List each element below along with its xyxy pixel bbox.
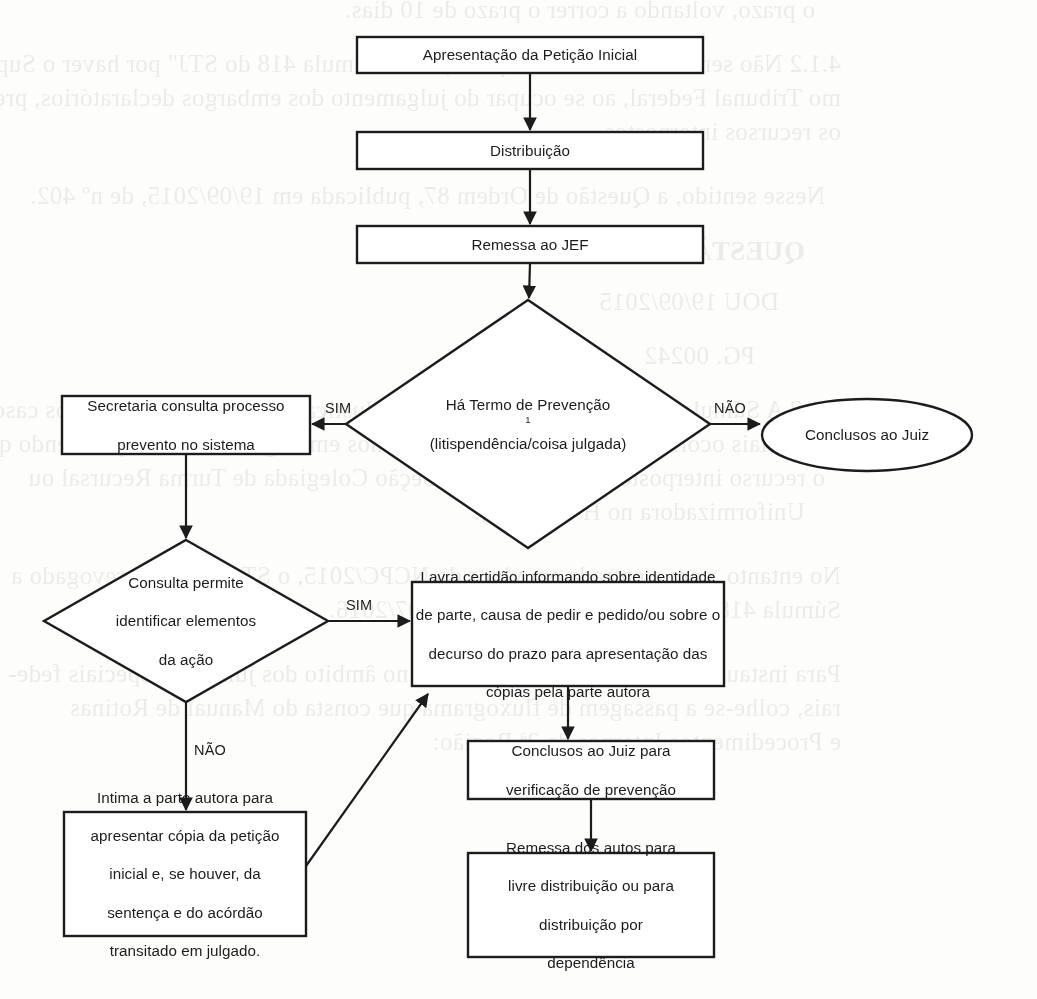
node-shape-peticao-inicial bbox=[357, 37, 703, 73]
edge-intima-to-lavra bbox=[306, 694, 428, 866]
node-shape-distribuicao bbox=[357, 132, 703, 169]
node-shape-lavra-certidao bbox=[412, 582, 724, 686]
node-shape-remessa-jef bbox=[357, 226, 703, 263]
node-shape-decisao-prevencao bbox=[346, 300, 710, 548]
edge-label-consulta-nao: NÃO bbox=[194, 742, 226, 758]
edge-label-consulta-sim: SIM bbox=[346, 597, 372, 613]
flowchart-svg bbox=[0, 0, 1037, 999]
node-shape-decisao-consulta bbox=[44, 540, 328, 702]
flowchart-page: o prazo, voltando a correr o prazo de 10… bbox=[0, 0, 1037, 999]
node-shape-secretaria-consulta bbox=[62, 396, 310, 454]
node-shape-intima-parte bbox=[64, 812, 306, 936]
edge-remessa-to-decisao bbox=[529, 263, 530, 298]
flowchart-canvas: Apresentação da Petição Inicial Distribu… bbox=[0, 0, 1037, 999]
edge-label-prevencao-sim: SIM bbox=[325, 400, 351, 416]
edge-label-prevencao-nao: NÃO bbox=[714, 400, 746, 416]
node-shape-conclusos-verificacao bbox=[468, 741, 714, 799]
node-shape-conclusos-juiz bbox=[762, 399, 972, 471]
node-shape-remessa-autos bbox=[468, 853, 714, 957]
